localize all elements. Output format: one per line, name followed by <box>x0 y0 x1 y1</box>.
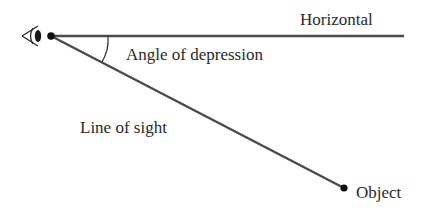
object-label: Object <box>356 184 401 201</box>
observer-point <box>47 32 55 40</box>
eye-icon <box>22 26 41 46</box>
horizontal-label: Horizontal <box>300 11 373 28</box>
angle-of-depression-label: Angle of depression <box>126 46 263 63</box>
angle-arc <box>102 37 108 62</box>
line-of-sight-label: Line of sight <box>80 119 167 136</box>
object-point <box>340 184 347 191</box>
